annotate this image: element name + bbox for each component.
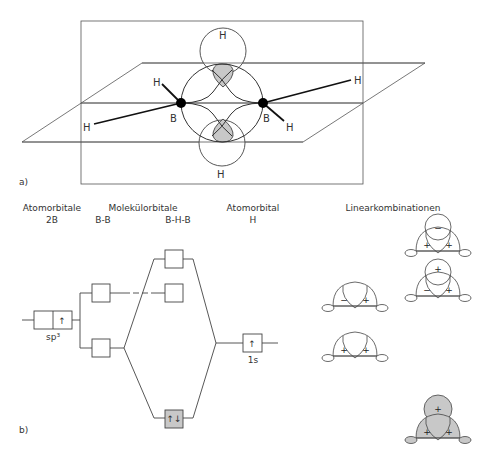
part-a-structure: H H H H H H B B a) (19, 21, 425, 187)
label-h-left-lower: H (83, 122, 91, 133)
boron-atom-left (176, 98, 186, 108)
label-h-left-upper: H (153, 77, 161, 88)
label-h-top: H (219, 30, 227, 41)
bond-b-h-left-lower (94, 103, 181, 124)
label-part-a: a) (19, 177, 28, 187)
lc-bb-antisymmetric: − + (322, 282, 388, 312)
label-part-b: b) (19, 425, 28, 435)
svg-text:−: − (434, 223, 442, 233)
header-2b: 2B (46, 215, 58, 225)
boron-atom-right (258, 98, 268, 108)
header-bhb: B-H-B (165, 215, 190, 225)
svg-text:−: − (340, 295, 348, 305)
svg-text:−: − (423, 285, 431, 295)
label-h-right-upper: H (354, 75, 362, 86)
lc-nonbonding-h: + − + (405, 259, 471, 302)
svg-text:+: + (445, 240, 453, 250)
svg-text:+: + (445, 285, 453, 295)
mo-diagram (22, 250, 278, 428)
svg-text:+: + (434, 264, 442, 274)
diborane-diagram: H H H H H H B B a) Atomorbitale 2B Molek… (0, 0, 485, 456)
label-b-right: B (263, 113, 270, 124)
lc-bb-symmetric: + + (322, 332, 388, 362)
svg-text:+: + (423, 427, 431, 437)
svg-text:+: + (445, 427, 453, 437)
label-h-bottom: H (217, 169, 225, 180)
h-1s-electron-arrow: ↑ (248, 339, 256, 349)
header-atomorbitale: Atomorbitale (23, 203, 82, 213)
svg-text:+: + (434, 404, 442, 414)
svg-text:+: + (423, 240, 431, 250)
svg-text:+: + (340, 345, 348, 355)
label-h-right-lower: H (286, 122, 294, 133)
bhb-nonbonding-box (165, 284, 183, 302)
bb-antibonding-box (92, 284, 110, 302)
svg-text:+: + (362, 295, 370, 305)
bhb-bonding-electrons: ↑↓ (166, 414, 181, 424)
svg-text:+: + (362, 345, 370, 355)
lc-antibonding: − + + (405, 214, 471, 257)
header-linearkombinationen: Linearkombinationen (345, 203, 440, 213)
header-atomorbital: Atomorbital (227, 203, 280, 213)
header-molekuelorbitale: Molekülorbitale (109, 203, 178, 213)
sp3-electron-arrow: ↑ (58, 316, 66, 326)
bb-bonding-box (92, 339, 110, 357)
header-h: H (250, 215, 257, 225)
lc-bonding-bhb: + + + (405, 395, 471, 444)
h-1s-label: 1s (248, 355, 259, 365)
bond-b-h-right-upper (263, 80, 351, 103)
header-bb: B-B (95, 215, 110, 225)
label-b-left: B (170, 113, 177, 124)
part-b-headers: Atomorbitale 2B Molekülorbitale B-B B-H-… (23, 203, 441, 225)
sp3-label: sp³ (46, 332, 60, 342)
bridge-lobe-top (213, 64, 233, 87)
bhb-antibonding-box (165, 250, 183, 268)
